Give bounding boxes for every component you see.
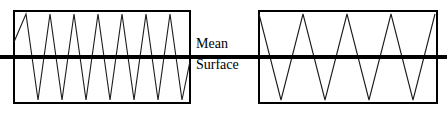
mean-surface-label-line2: Surface (196, 58, 254, 72)
mean-surface-label-line1: Mean (196, 37, 254, 51)
figure-canvas: Mean Surface (0, 0, 447, 115)
